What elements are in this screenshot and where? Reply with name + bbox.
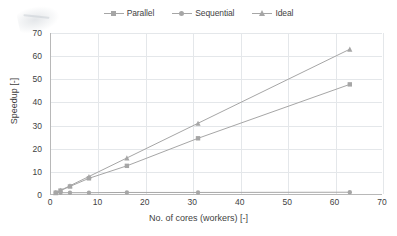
y-tick-label: 40 [33, 97, 42, 107]
series-layer [51, 33, 383, 195]
plot-area [50, 33, 382, 195]
data-point-marker [348, 190, 352, 194]
series-parallel [54, 82, 352, 195]
series-ideal [53, 47, 352, 196]
data-point-marker [87, 190, 91, 194]
legend-label: Ideal [275, 8, 293, 18]
y-tick-label: 10 [33, 167, 42, 177]
data-point-marker [348, 82, 352, 86]
series-sequential [54, 190, 352, 195]
x-tick-label: 20 [140, 197, 149, 207]
data-point-marker [196, 136, 200, 140]
legend-item-parallel[interactable]: Parallel [104, 8, 155, 18]
data-point-marker [124, 155, 129, 160]
x-tick-label: 70 [377, 197, 386, 207]
data-point-marker [195, 121, 200, 126]
data-point-marker [125, 164, 129, 168]
legend-item-ideal[interactable]: Ideal [252, 8, 293, 18]
y-tick-label: 30 [33, 121, 42, 131]
legend-marker-square-icon [104, 9, 124, 18]
speedup-line-chart: ParallelSequentialIdeal 010203040506070 … [0, 0, 397, 236]
data-point-marker [68, 190, 72, 194]
x-tick-label: 60 [330, 197, 339, 207]
chart-legend: ParallelSequentialIdeal [0, 8, 397, 18]
x-tick-label: 30 [188, 197, 197, 207]
x-axis-tick-labels: 010203040506070 [50, 197, 382, 211]
gridline-vertical [383, 33, 384, 194]
legend-marker-triangle-icon [252, 9, 272, 18]
y-tick-label: 60 [33, 51, 42, 61]
y-tick-label: 50 [33, 74, 42, 84]
y-tick-label: 20 [33, 144, 42, 154]
series-line [56, 84, 350, 192]
legend-label: Sequential [195, 8, 234, 18]
x-tick-label: 0 [48, 197, 53, 207]
series-line [56, 49, 350, 192]
x-tick-label: 50 [282, 197, 291, 207]
data-point-marker [347, 47, 352, 52]
y-tick-label: 70 [33, 28, 42, 38]
legend-item-sequential[interactable]: Sequential [172, 8, 234, 18]
data-point-marker [196, 190, 200, 194]
data-point-marker [125, 190, 129, 194]
y-axis-title: Speedup [-] [9, 41, 19, 161]
legend-marker-circle-icon [172, 9, 192, 18]
legend-label: Parallel [127, 8, 155, 18]
y-tick-label: 0 [37, 190, 42, 200]
x-axis-title: No. of cores (workers) [-] [0, 213, 397, 223]
x-tick-label: 40 [235, 197, 244, 207]
y-axis-tick-labels: 010203040506070 [0, 33, 46, 195]
x-tick-label: 10 [93, 197, 102, 207]
